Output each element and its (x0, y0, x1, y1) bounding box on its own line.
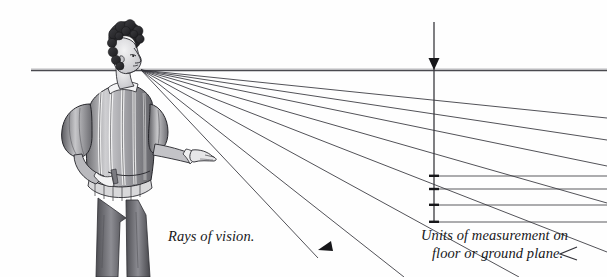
ground-unit-lines-group (434, 176, 607, 222)
caption-units-line-2: floor or ground plane. (421, 245, 568, 263)
intersection-tick (429, 175, 439, 177)
intersection-tick (429, 221, 439, 223)
vision-ray (141, 70, 607, 118)
vision-ray (141, 70, 607, 166)
perspective-diagram-figure: Rays of vision. Units of measurement on … (0, 0, 607, 277)
figure-doublet (86, 84, 154, 187)
caption-units-of-measurement: Units of measurement on floor or ground … (421, 227, 568, 262)
figure-legs (96, 198, 150, 277)
intersection-tick (429, 204, 439, 206)
vision-ray (141, 70, 404, 277)
measuring-line-group (429, 22, 440, 223)
ray-arrowhead-lower-left (318, 241, 333, 251)
arrow-down-icon (429, 58, 440, 70)
caption-rays-of-vision: Rays of vision. (168, 228, 254, 246)
caption-units-line-1: Units of measurement on (421, 227, 568, 245)
vision-ray (141, 70, 607, 140)
intersection-tick (429, 188, 439, 190)
figure-right-arm-pointing (149, 104, 217, 164)
vision-ray (141, 70, 607, 203)
